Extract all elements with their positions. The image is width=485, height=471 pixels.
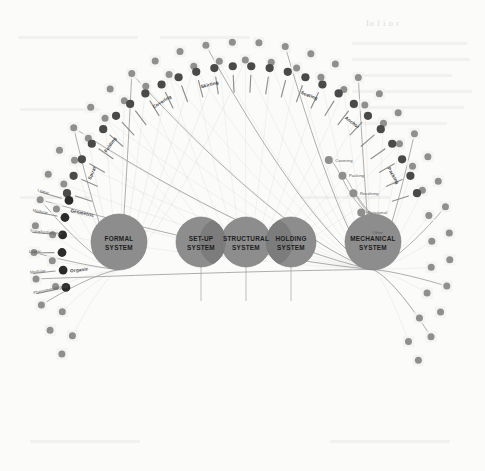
formal-attribute-node <box>59 266 68 275</box>
diagram-canvas: Io f i o r FORMALSYSTEMSET-UPSYSTEMSTRUC… <box>0 0 485 471</box>
bottom-arc-node <box>56 147 63 154</box>
system-node-formal[interactable] <box>91 214 147 270</box>
top-arc-node <box>192 68 200 76</box>
bottom-arc-node <box>216 58 223 65</box>
formal-attribute-label: Modular <box>30 268 46 275</box>
top-arc-node <box>398 155 406 163</box>
bottom-arc-node <box>255 39 262 46</box>
top-arc-node <box>157 80 165 88</box>
hub-edge <box>373 269 427 293</box>
bottom-arc-node <box>428 333 435 340</box>
bottom-arc-node <box>58 351 65 358</box>
top-arc-node <box>78 155 86 163</box>
top-arc-node <box>301 73 309 81</box>
mechanical-output-node <box>338 172 346 180</box>
mechanical-output-label: Rotational <box>368 210 387 215</box>
top-arc-node <box>247 62 255 70</box>
node-leader-tick <box>371 149 385 159</box>
bottom-arc-node <box>409 163 416 170</box>
bottom-arc-node <box>37 196 44 203</box>
top-arc-node <box>63 189 71 197</box>
node-leader-tick <box>122 122 134 134</box>
bottom-arc-node <box>442 203 449 210</box>
bottom-arc-node <box>425 212 432 219</box>
bottom-arc-node <box>307 50 314 57</box>
formal-attribute-node <box>65 196 74 205</box>
bottom-arc-node <box>282 43 289 50</box>
top-arc-node <box>377 125 385 133</box>
bottom-arc-node <box>443 283 450 290</box>
top-arc-node <box>99 125 107 133</box>
bottom-arc-node <box>376 90 383 97</box>
node-leader-tick <box>136 111 146 124</box>
top-arc-node <box>266 64 274 72</box>
system-node-mechanical[interactable] <box>345 214 401 270</box>
bottom-arc-node <box>166 71 173 78</box>
bottom-arc-node <box>71 157 78 164</box>
formal-attribute-label: Modular <box>32 208 49 216</box>
system-circle[interactable] <box>345 214 401 270</box>
top-arc-node <box>318 80 326 88</box>
top-arc-node <box>174 73 182 81</box>
node-leader-tick <box>76 196 92 201</box>
bottom-arc-node <box>405 338 412 345</box>
hub-edge <box>72 269 119 335</box>
bottom-arc-node <box>107 86 114 93</box>
system-node-structural[interactable] <box>221 217 271 267</box>
top-arc-node <box>350 100 358 108</box>
bottom-arc-node <box>177 48 184 55</box>
bottom-arc-node <box>428 238 435 245</box>
bottom-arc-node <box>437 308 444 315</box>
mechanical-output-label: Packing <box>349 173 365 178</box>
top-arc-group-label: Seating <box>300 90 318 101</box>
bottom-arc-node <box>87 104 94 111</box>
bottom-arc-node <box>33 275 40 282</box>
bottom-arc-node <box>38 302 45 309</box>
radial-network-svg: FORMALSYSTEMSET-UPSYSTEMSTRUCTURALSYSTEM… <box>0 0 485 471</box>
bottom-arc-node <box>332 61 339 68</box>
bottom-arc-node <box>70 124 77 131</box>
bottom-arc-node <box>355 74 362 81</box>
node-leader-tick <box>361 135 374 146</box>
node-leader-tick <box>266 77 269 94</box>
top-arc-node <box>126 100 134 108</box>
bottom-arc-node <box>446 256 453 263</box>
bottom-arc-node <box>49 257 56 264</box>
top-arc-node <box>112 112 120 120</box>
system-circle[interactable] <box>91 214 147 270</box>
bottom-arc-node <box>202 42 209 49</box>
top-arc-node <box>284 68 292 76</box>
top-arc-node <box>69 172 77 180</box>
bottom-arc-node <box>415 357 422 364</box>
top-arc-layer <box>63 62 421 201</box>
top-arc-node <box>210 64 218 72</box>
bottom-arc-node <box>396 140 403 147</box>
formal-group-label: Geometric <box>70 208 95 218</box>
system-circle[interactable] <box>221 217 271 267</box>
bottom-arc-node <box>128 70 135 77</box>
top-arc-node <box>388 140 396 148</box>
top-arc-node <box>364 112 372 120</box>
mechanical-output-label: Other <box>372 230 383 235</box>
bottom-arc-node <box>47 327 54 334</box>
formal-group-label: Organic <box>70 266 89 273</box>
mechanical-output-node <box>325 156 333 164</box>
formal-attribute-node <box>61 213 70 222</box>
bottom-arc-node <box>229 39 236 46</box>
bottom-arc-node <box>446 230 453 237</box>
node-leader-tick <box>392 196 408 201</box>
node-leader-tick <box>233 75 234 92</box>
top-arc-node <box>141 89 149 97</box>
bottom-arc-node <box>435 178 442 185</box>
bottom-arc-node <box>395 109 402 116</box>
bottom-arc-node <box>59 308 66 315</box>
bottom-arc-node <box>60 181 67 188</box>
top-arc-node <box>229 62 237 70</box>
bottom-arc-node <box>424 153 431 160</box>
systems-layer: FORMALSYSTEMSET-UPSYSTEMSTRUCTURALSYSTEM… <box>91 214 401 270</box>
top-arc-node <box>335 89 343 97</box>
mechanical-output-edge <box>329 160 377 216</box>
mechanical-output-node <box>349 189 357 197</box>
bottom-arc-node <box>424 290 431 297</box>
mechanical-output-label: Covering <box>335 158 353 163</box>
